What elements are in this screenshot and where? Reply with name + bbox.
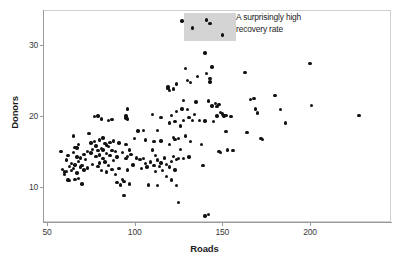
- x-axis-title: Roads: [0, 243, 409, 254]
- x-tick: [47, 222, 48, 226]
- y-tick: [40, 187, 44, 188]
- x-tick: [222, 222, 223, 226]
- annotation-recovery-rate: A surprisingly high recovery rate: [236, 12, 346, 35]
- y-tick: [40, 45, 44, 46]
- y-tick-label: 20: [24, 111, 38, 121]
- y-tick: [40, 116, 44, 117]
- plot-frame: [43, 10, 391, 222]
- y-tick-label: 10: [24, 182, 38, 192]
- x-tick: [135, 222, 136, 226]
- x-axis-line: [43, 222, 392, 223]
- x-tick: [310, 222, 311, 226]
- x-tick-label: 100: [128, 227, 142, 237]
- x-tick-label: 200: [303, 227, 317, 237]
- y-axis-title: Donors: [9, 83, 20, 143]
- y-tick-label: 30: [24, 40, 38, 50]
- x-tick-label: 150: [216, 227, 230, 237]
- annotation-line-2: recovery rate: [236, 24, 346, 36]
- annotation-line-1: A surprisingly high: [236, 12, 346, 24]
- scatter-plot-figure: 50100150200102030 Donors Roads A surpris…: [0, 0, 409, 263]
- x-tick-label: 50: [42, 227, 51, 237]
